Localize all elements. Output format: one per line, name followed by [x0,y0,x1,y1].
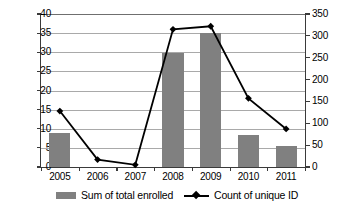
bar [200,33,221,167]
right-axis-tick-label: 200 [312,75,328,85]
category-axis-tick [305,167,306,171]
bar [162,53,183,167]
left-axis-tick-label: 20 [40,86,51,96]
category-label: 2007 [116,172,154,182]
category-label: 2010 [230,172,268,182]
left-axis-tick [37,147,41,148]
right-axis-tick [306,79,310,80]
category-axis-tick [192,167,193,171]
legend-label-line: Count of unique ID [214,190,298,201]
right-axis-tick [306,57,310,58]
left-axis-tick-label: 15 [40,105,51,115]
combo-chart: 0510152025303540 050100150200250300350 2… [0,0,354,217]
right-axis-tick [306,145,310,146]
plot-top-border [41,14,305,15]
right-axis-tick-label: 300 [312,31,328,41]
left-axis-tick-label: 30 [40,47,51,57]
legend-item-line: Count of unique ID [184,190,298,201]
category-label: 2005 [41,172,79,182]
category-label: 2011 [267,172,305,182]
category-axis-tick [79,167,80,171]
right-axis-tick [306,123,310,124]
right-axis-tick [306,35,310,36]
gridline [41,33,305,34]
legend-item-bar: Sum of total enrolled [56,190,173,201]
category-axis-tick [267,167,268,171]
right-axis-tick [306,101,310,102]
right-axis-tick-label: 100 [312,118,328,128]
left-axis-tick [37,166,41,167]
category-label: 2009 [192,172,230,182]
legend-label-bar: Sum of total enrolled [81,190,173,201]
category-axis-tick [41,167,42,171]
left-axis-tick-label: 25 [40,66,51,76]
category-label: 2008 [154,172,192,182]
right-axis-tick-label: 0 [312,162,317,172]
line-diamond-swatch-icon [184,191,209,200]
right-axis-tick [306,13,310,14]
chart-legend: Sum of total enrolled Count of unique ID [0,190,354,201]
right-axis-tick-label: 150 [312,96,328,106]
category-axis-tick [116,167,117,171]
bar [238,135,259,167]
right-axis-tick-label: 50 [312,140,323,150]
category-axis-tick [230,167,231,171]
bar [49,133,70,167]
left-axis-tick-label: 35 [40,28,51,38]
category-label: 2006 [79,172,117,182]
category-axis-tick [154,167,155,171]
bar [276,146,297,167]
bar-swatch-icon [56,192,76,199]
right-axis-tick-label: 250 [312,53,328,63]
left-axis-tick-label: 40 [40,9,51,19]
right-axis-tick-label: 350 [312,9,328,19]
